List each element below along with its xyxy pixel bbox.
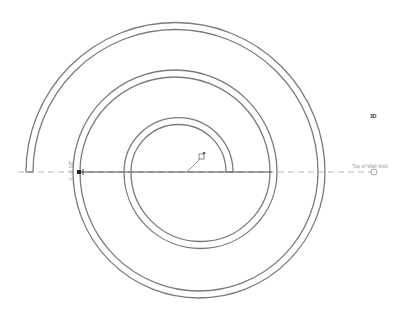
spiral-wall-plan	[0, 0, 410, 317]
origin-marker-icon[interactable]	[199, 154, 204, 159]
origin-grip-icon[interactable]	[203, 152, 205, 154]
wall-inner-face	[33, 30, 318, 292]
dimension-label[interactable]: 0 - 0 1/2"	[68, 160, 74, 180]
reference-end-circle-icon[interactable]	[371, 169, 377, 175]
dimension-endpoint-icon[interactable]	[77, 170, 81, 174]
reference-plane-label[interactable]: Top of Wall Void	[352, 163, 388, 169]
leader-line	[187, 158, 201, 172]
view-tag: 3D	[370, 113, 376, 119]
